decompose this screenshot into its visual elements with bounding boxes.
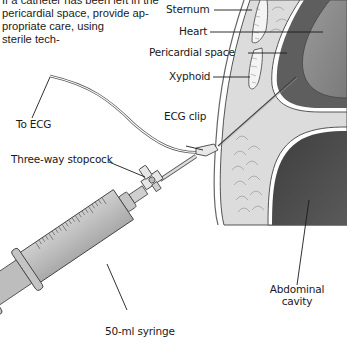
- label-sternum: Sternum: [166, 3, 210, 15]
- label-heart: Heart: [179, 25, 207, 37]
- label-abdominal-cavity-line1: Abdominal: [267, 283, 327, 295]
- label-three-way-stopcock: Three-way stopcock: [11, 153, 113, 165]
- label-ecg-clip: ECG clip: [164, 110, 206, 122]
- caption-line: pericardial space, provide ap-: [2, 7, 172, 20]
- label-abdominal-cavity-line2: cavity: [267, 295, 327, 307]
- label-xyphoid: Xyphoid: [169, 70, 210, 82]
- caption-line: propriate care, using: [2, 20, 172, 33]
- connector-tube: [160, 156, 196, 180]
- label-abdominal-cavity: Abdominal cavity: [267, 283, 327, 307]
- label-50ml-syringe: 50-ml syringe: [105, 325, 175, 337]
- caption-text: If a catheter has been left in the peric…: [2, 0, 172, 46]
- label-pericardial-space: Pericardial space: [149, 46, 235, 58]
- syringe: [0, 170, 158, 318]
- caption-line: If a catheter has been left in the: [2, 0, 172, 7]
- label-to-ecg: To ECG: [16, 118, 51, 130]
- caption-line: sterile tech-: [2, 33, 172, 46]
